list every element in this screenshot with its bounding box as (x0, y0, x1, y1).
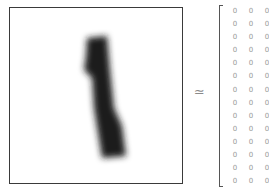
matrix-row: 000 (227, 149, 269, 162)
matrix-cell: 0 (243, 97, 259, 110)
matrix-cell: 0 (227, 70, 243, 83)
matrix-cell: 0 (227, 149, 243, 162)
matrix-cell: 0 (243, 70, 259, 83)
matrix-cell: 0 (259, 84, 269, 97)
matrix-cell: 0 (259, 31, 269, 44)
matrix-cell: 0 (227, 110, 243, 123)
matrix-cell: 0 (227, 57, 243, 70)
matrix-cell: 0 (259, 149, 269, 162)
matrix-row: 000 (227, 18, 269, 31)
matrix-cell: 0 (259, 44, 269, 57)
matrix-cell: 0 (243, 175, 259, 188)
matrix-row: 000 (227, 97, 269, 110)
matrix-row: 000 (227, 44, 269, 57)
matrix-cell: 0 (259, 5, 269, 18)
matrix-cell: 0 (243, 18, 259, 31)
matrix-cell: 0 (259, 136, 269, 149)
matrix-cell: 0 (243, 162, 259, 175)
handwritten-digit-one (10, 8, 183, 184)
matrix-cell: 0 (227, 5, 243, 18)
matrix-row: 000 (227, 175, 269, 188)
matrix-row: 000 (227, 5, 269, 18)
approx-equal-symbol: ≃ (194, 85, 205, 98)
matrix-cell: 0 (227, 162, 243, 175)
matrix-cell: 0 (243, 5, 259, 18)
matrix-row: 000 (227, 31, 269, 44)
matrix-cell: 0 (227, 136, 243, 149)
matrix-cell: 0 (227, 175, 243, 188)
matrix-cell: 0 (227, 18, 243, 31)
matrix-cell: 0 (227, 44, 243, 57)
matrix-cell: 0 (243, 31, 259, 44)
matrix-cell: 0 (243, 149, 259, 162)
matrix-row: 000 (227, 70, 269, 83)
matrix-cell: 0 (243, 110, 259, 123)
matrix-cell: 0 (259, 18, 269, 31)
matrix-row: 000 (227, 136, 269, 149)
matrix-cell: 0 (259, 70, 269, 83)
matrix-row: 000 (227, 123, 269, 136)
matrix-cell: 0 (259, 110, 269, 123)
matrix-cell: 0 (243, 123, 259, 136)
matrix-cell: 0 (227, 84, 243, 97)
matrix-row: 000 (227, 162, 269, 175)
matrix-cell: 0 (227, 97, 243, 110)
digit-image-frame (9, 7, 183, 184)
matrix-left-bracket (219, 5, 223, 187)
pixel-matrix: 0000000000000000000000000000000000000000… (227, 5, 269, 188)
matrix-cell: 0 (259, 123, 269, 136)
matrix-cell: 0 (259, 162, 269, 175)
matrix-row: 000 (227, 110, 269, 123)
matrix-cell: 0 (227, 123, 243, 136)
matrix-row: 000 (227, 57, 269, 70)
matrix-cell: 0 (259, 97, 269, 110)
matrix-cell: 0 (243, 84, 259, 97)
matrix-cell: 0 (243, 44, 259, 57)
matrix-cell: 0 (227, 31, 243, 44)
matrix-cell: 0 (243, 57, 259, 70)
matrix-cell: 0 (259, 175, 269, 188)
matrix-row: 000 (227, 84, 269, 97)
matrix-cell: 0 (243, 136, 259, 149)
matrix-cell: 0 (259, 57, 269, 70)
